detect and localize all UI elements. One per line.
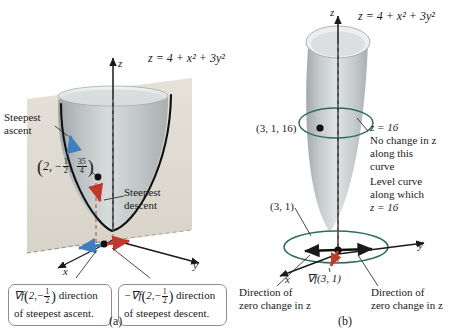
zero-change-left-annotation: Direction of zero change in z — [239, 286, 311, 312]
coord-y-fraction: 1 2 — [63, 158, 69, 175]
leader-callout-descent — [112, 248, 150, 278]
paren-close: ) — [88, 157, 94, 177]
callout-steepest-descent: −∇f(2,− 1 2 ) direction of steepest desc… — [118, 284, 227, 326]
no-change-line1: No change in z — [370, 134, 436, 147]
coord-y-sign: − — [55, 159, 62, 173]
panel-label-b: (b) — [338, 314, 352, 328]
zero-change-direction-left — [305, 250, 337, 251]
steepest-ascent-label: Steepest ascent — [4, 111, 41, 137]
paraboloid-surface-b — [306, 29, 368, 232]
z-equals-16-label: z = 16 — [370, 121, 436, 134]
callout-descent-line2: of steepest descent. — [124, 306, 221, 320]
base-point-a — [100, 240, 107, 247]
point-3-1-16-label: (3, 1, 16) — [256, 122, 296, 135]
steepest-descent-line2: descent — [124, 199, 161, 212]
x-axis-label-b: x — [285, 273, 290, 286]
z-axis-label-b: z — [330, 6, 334, 19]
gradient-arrow-b — [331, 251, 338, 266]
point-coordinate-label-a: (2, − 1 2 , 35 4 ) — [37, 157, 94, 178]
steepest-descent-line1: Steepest — [124, 186, 161, 199]
y-axis-label-b: y — [418, 239, 423, 252]
panel-label-a: (a) — [109, 314, 122, 328]
coord-z-fraction: 35 4 — [77, 158, 87, 175]
x-axis-label-a: x — [63, 265, 68, 278]
coord-comma: , — [70, 159, 73, 173]
callout-descent-line1: −∇f(2,− 1 2 ) direction — [124, 288, 221, 306]
equation-z: z = 4 + x² + 3y² — [148, 51, 225, 65]
zero-change-direction-right — [339, 249, 372, 250]
z-axis-label-a: z — [118, 57, 122, 70]
y-axis-a — [113, 240, 199, 263]
zero-change-right-annotation: Direction of zero change in z — [371, 286, 443, 312]
callout-ascent-line2: of steepest ascent. — [14, 306, 106, 320]
grad-symbol-ascent: ∇f — [14, 289, 24, 301]
y-axis-label-a: y — [193, 259, 198, 272]
steepest-descent-label: Steepest descent — [124, 186, 161, 212]
level-value-annotation: z = 16 No change in z along this curve — [370, 121, 436, 173]
zero-change-right-line1: Direction of — [371, 286, 443, 299]
zero-change-left-line2: zero change in z — [239, 299, 311, 312]
callout-steepest-ascent: ∇f(2,− 1 2 ) direction of steepest ascen… — [8, 284, 112, 326]
level-curve-line3: z = 16 — [370, 201, 424, 214]
level-curve-line1: Level curve — [370, 175, 424, 188]
equation-label-a: z = 4 + x² + 3y² — [148, 51, 225, 65]
gradient-figure: z = 4 + x² + 3y² z x y Steepest ascent S… — [0, 0, 462, 334]
no-change-line2: along this — [370, 147, 436, 160]
point-3-1-label: (3, 1) — [270, 200, 294, 213]
equation-label-b: z = 4 + x² + 3y² — [358, 9, 435, 23]
zero-change-right-line2: zero change in z — [371, 299, 443, 312]
grad-symbol-descent: −∇f — [124, 289, 141, 301]
level-curve-annotation: Level curve along which z = 16 — [370, 175, 424, 214]
steepest-ascent-line1: Steepest — [4, 111, 41, 124]
level-curve-line2: along which — [370, 188, 424, 201]
no-change-line3: curve — [370, 160, 436, 173]
surface-point-a — [95, 174, 102, 181]
zero-change-left-line1: Direction of — [239, 286, 311, 299]
leader-point-3-1 — [295, 208, 311, 236]
gradient-label-b: ∇f(3, 1) — [307, 272, 341, 285]
leader-zero-change-left — [277, 255, 310, 286]
steepest-ascent-line2: ascent — [4, 124, 41, 137]
coord-x: 2, — [43, 159, 52, 173]
callout-ascent-line1: ∇f(2,− 1 2 ) direction — [14, 288, 106, 306]
